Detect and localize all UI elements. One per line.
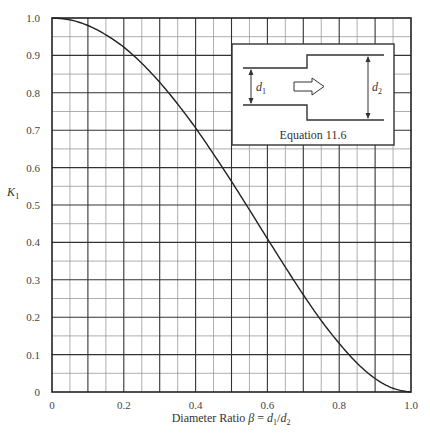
y-tick-label: 0.5 bbox=[26, 199, 40, 211]
x-tick-label: 0.2 bbox=[117, 399, 131, 411]
y-tick-label: 0 bbox=[35, 386, 41, 398]
y-tick-label: 0.8 bbox=[26, 87, 40, 99]
y-axis-label: K1 bbox=[6, 185, 20, 201]
inset-caption: Equation 11.6 bbox=[280, 128, 347, 142]
x-tick-label: 0.6 bbox=[261, 399, 275, 411]
x-tick-label: 0 bbox=[49, 399, 55, 411]
y-tick-label: 0.1 bbox=[26, 349, 40, 361]
x-axis-ticks: 00.20.40.60.81.0 bbox=[49, 399, 418, 411]
y-tick-label: 0.6 bbox=[26, 162, 40, 174]
y-tick-label: 1.0 bbox=[26, 12, 40, 24]
y-tick-label: 0.2 bbox=[26, 311, 40, 323]
x-tick-label: 0.4 bbox=[189, 399, 203, 411]
k1-chart: 00.20.40.60.81.0 00.10.20.30.40.50.60.70… bbox=[0, 0, 430, 435]
y-tick-label: 0.7 bbox=[26, 124, 40, 136]
x-tick-label: 1.0 bbox=[404, 399, 418, 411]
inset-diagram: d1 d2 Equation 11.6 bbox=[232, 44, 394, 145]
y-tick-label: 0.3 bbox=[26, 274, 40, 286]
x-axis-label: Diameter Ratio β = d1/d2 bbox=[172, 411, 291, 427]
x-tick-label: 0.8 bbox=[332, 399, 346, 411]
y-tick-label: 0.9 bbox=[26, 49, 40, 61]
y-axis-ticks: 00.10.20.30.40.50.60.70.80.91.0 bbox=[26, 12, 40, 398]
y-tick-label: 0.4 bbox=[26, 236, 40, 248]
